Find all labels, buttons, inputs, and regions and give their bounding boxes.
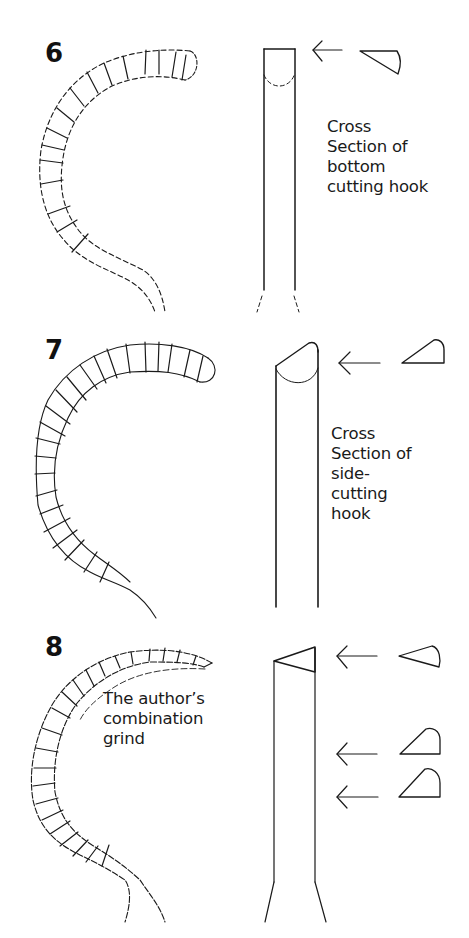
fig7-shank [276, 343, 318, 607]
fig8-arrow-icon-2 [337, 743, 377, 765]
fig8-arrow-icon-3 [337, 786, 378, 808]
fig8-cross-section-wedge-3 [399, 769, 440, 797]
figure-number-6: 6 [45, 40, 63, 66]
fig8-shank [265, 647, 326, 922]
fig7-caption: Cross Section of side- cutting hook [331, 424, 411, 524]
figure-number-7: 7 [45, 337, 63, 363]
fig6-hook-profile [40, 50, 197, 312]
fig6-caption: Cross Section of bottom cutting hook [327, 117, 428, 197]
fig7-cross-section-wedge [402, 340, 444, 363]
fig7-hook-profile [35, 342, 215, 618]
fig6-arrow-icon [313, 41, 342, 61]
fig8-cross-section-wedge-1 [399, 646, 440, 667]
fig6-cross-section-wedge [360, 51, 400, 74]
figure-number-8: 8 [45, 634, 63, 660]
fig7-arrow-icon [339, 352, 380, 374]
fig6-shank [257, 49, 299, 312]
fig8-cross-section-wedge-2 [400, 728, 440, 754]
fig8-caption: The author’s combination grind [103, 689, 205, 749]
fig8-arrow-icon-1 [337, 646, 377, 668]
